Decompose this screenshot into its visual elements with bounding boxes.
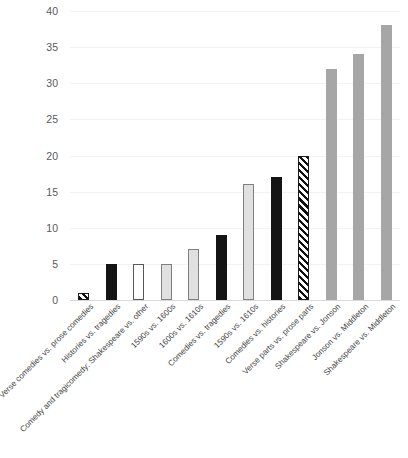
bar-12 bbox=[381, 25, 392, 300]
bar-9 bbox=[298, 156, 309, 301]
bar-3 bbox=[133, 264, 144, 300]
bar-4 bbox=[161, 264, 172, 300]
y-tick-label-0: 0 bbox=[52, 295, 58, 305]
bar-chart: 0510152025303540 Verse comedies vs. pros… bbox=[0, 0, 408, 458]
y-tick-label-20: 20 bbox=[46, 151, 58, 161]
bar-6 bbox=[216, 235, 227, 300]
y-tick-label-40: 40 bbox=[46, 6, 58, 16]
bar-7 bbox=[243, 184, 254, 300]
bar-11 bbox=[353, 54, 364, 300]
axis-baseline bbox=[70, 300, 400, 301]
y-tick-label-30: 30 bbox=[46, 78, 58, 88]
bars-group bbox=[70, 11, 400, 300]
x-axis: Verse comedies vs. prose comediesHistori… bbox=[70, 302, 408, 458]
y-tick-label-35: 35 bbox=[46, 42, 58, 52]
y-tick-label-15: 15 bbox=[46, 187, 58, 197]
bar-2 bbox=[106, 264, 117, 300]
y-axis: 0510152025303540 bbox=[0, 0, 66, 311]
x-tick-label-6: Comedies vs. tragedies bbox=[0, 302, 233, 458]
y-tick-label-25: 25 bbox=[46, 114, 58, 124]
bar-10 bbox=[326, 69, 337, 300]
y-tick-label-10: 10 bbox=[46, 223, 58, 233]
bar-8 bbox=[271, 177, 282, 300]
y-tick-label-5: 5 bbox=[52, 259, 58, 269]
bar-1 bbox=[78, 293, 89, 300]
bar-5 bbox=[188, 249, 199, 300]
